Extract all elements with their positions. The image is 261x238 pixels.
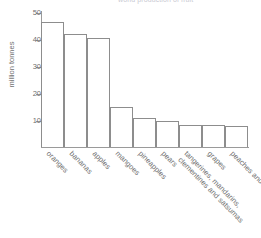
x-axis-label: oranges	[44, 149, 70, 175]
bar	[64, 34, 87, 147]
x-axis-label-line: clementines and satsumas	[176, 155, 245, 224]
bar	[133, 118, 156, 147]
x-axis-label: bananas	[67, 149, 94, 176]
bar	[156, 121, 179, 147]
y-tick-label-20: 20	[15, 90, 41, 98]
bar	[87, 38, 110, 147]
y-tick-label-10: 10	[15, 117, 41, 125]
bar	[202, 125, 225, 147]
bar-chart: world production of fruit 50 40 30 20 10…	[0, 0, 261, 238]
y-tick-label-50: 50	[15, 9, 41, 17]
x-axis-label-line: oranges	[44, 149, 70, 175]
x-axis-labels: orangesbananasapplesmangoespineapplespea…	[41, 149, 261, 238]
bar	[110, 107, 133, 147]
y-axis-title: million tonnes	[7, 30, 16, 100]
plot-area: 50 40 30 20 10 million tonnes orangesban…	[0, 0, 261, 238]
bar	[179, 125, 202, 147]
bar	[41, 22, 64, 147]
x-axis-label-line: pears	[159, 149, 179, 169]
x-axis-label-line: bananas	[67, 149, 94, 176]
y-tick-label-40: 40	[15, 36, 41, 44]
bar	[225, 126, 248, 147]
x-axis-label: pears	[159, 149, 179, 169]
y-tick-label-30: 30	[15, 63, 41, 71]
